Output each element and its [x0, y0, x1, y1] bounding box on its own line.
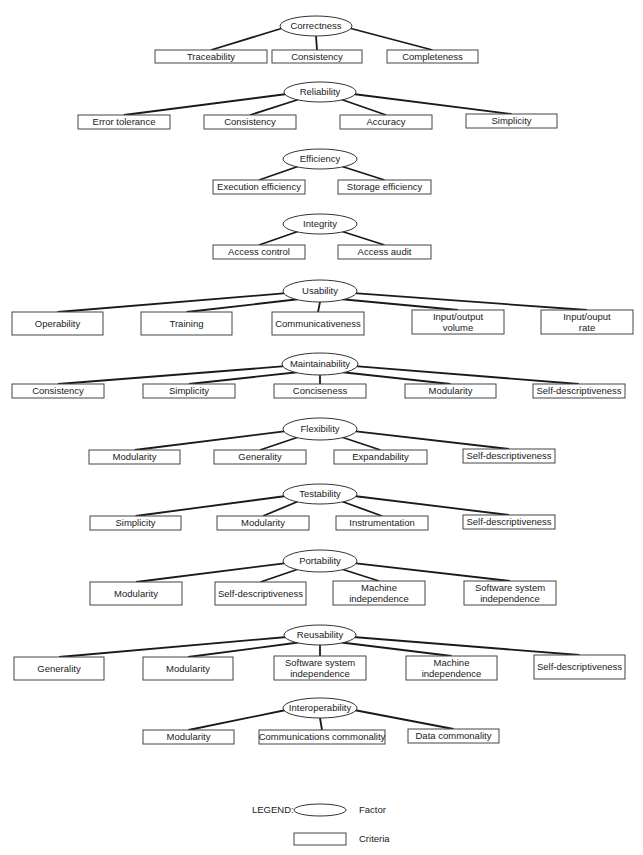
- criteria-label: Modularity: [241, 517, 285, 528]
- connector-line: [354, 293, 587, 310]
- connector-line: [259, 167, 298, 181]
- legend-factor-label: Factor: [359, 804, 386, 815]
- connector-line: [342, 437, 380, 450]
- criteria-label: Execution efficiency: [217, 181, 301, 192]
- criteria-label: Storage efficiency: [347, 181, 423, 192]
- criteria-label: Accuracy: [366, 116, 405, 127]
- connector-line: [189, 710, 286, 730]
- legend: LEGEND: Factor Criteria: [252, 804, 390, 845]
- criteria-label: Data commonality: [415, 730, 491, 741]
- criteria-label: Conciseness: [293, 385, 348, 396]
- criteria-label: Generality: [238, 451, 282, 462]
- criteria-label: Input/ouput: [563, 311, 611, 322]
- connector-line: [261, 569, 298, 582]
- connector-line: [187, 299, 298, 312]
- connector-line: [58, 366, 285, 384]
- connector-line: [354, 710, 453, 729]
- factor-label: Usability: [302, 285, 338, 296]
- criteria-label: Simplicity: [491, 115, 531, 126]
- factor-tree-reliability: ReliabilityError toleranceConsistencyAcc…: [78, 82, 557, 129]
- legend-title: LEGEND:: [252, 804, 294, 815]
- connector-line: [342, 167, 384, 181]
- criteria-label: Consistency: [291, 51, 343, 62]
- criteria-label: Operability: [35, 318, 81, 329]
- criteria-label: Training: [170, 318, 204, 329]
- connector-line: [211, 28, 283, 50]
- factor-tree-maintainability: MaintainabilityConsistencySimplicityConc…: [12, 353, 625, 398]
- connector-line: [260, 437, 298, 450]
- factor-label: Testability: [299, 488, 341, 499]
- criteria-label: Consistency: [32, 385, 84, 396]
- connector-line: [354, 563, 510, 581]
- criteria-label: Access control: [228, 246, 290, 257]
- connector-line: [354, 496, 509, 515]
- criteria-label: Error tolerance: [93, 116, 156, 127]
- factor-trees: CorrectnessTraceabilityConsistencyComple…: [12, 16, 633, 744]
- criteria-label: Input/output: [433, 311, 484, 322]
- criteria-label: Simplicity: [115, 517, 155, 528]
- criteria-label: Access audit: [358, 246, 412, 257]
- connector-line: [353, 637, 579, 655]
- factor-tree-integrity: IntegrityAccess controlAccess audit: [213, 214, 431, 259]
- connector-line: [318, 302, 320, 312]
- factor-label: Reusability: [297, 629, 344, 640]
- criteria-label: Modularity: [114, 588, 158, 599]
- connector-line: [189, 372, 297, 384]
- factor-tree-testability: TestabilitySimplicityModularityInstrumen…: [90, 484, 555, 530]
- legend-factor-ellipse-icon: [294, 804, 346, 816]
- connector-line: [342, 643, 452, 657]
- criteria-label: Modularity: [429, 385, 473, 396]
- criteria-label: Self-descriptiveness: [218, 588, 303, 599]
- criteria-label: Modularity: [113, 451, 157, 462]
- connector-line: [342, 299, 458, 310]
- connector-line: [135, 431, 286, 450]
- connector-line: [355, 366, 579, 384]
- criteria-label: Communicativeness: [275, 318, 361, 329]
- criteria-label: Traceability: [187, 51, 235, 62]
- criteria-label: Modularity: [167, 731, 211, 742]
- criteria-label: Expandability: [352, 451, 409, 462]
- criteria-label: independence: [422, 668, 482, 679]
- connector-line: [136, 563, 286, 582]
- criteria-label: independence: [290, 668, 350, 679]
- criteria-label: volume: [443, 322, 474, 333]
- criteria-label: Self-descriptiveness: [466, 516, 551, 527]
- factor-label: Integrity: [303, 218, 337, 229]
- factor-tree-reusability: ReusabilityGeneralityModularitySoftware …: [14, 625, 625, 680]
- criteria-label: Self-descriptiveness: [466, 450, 551, 461]
- criteria-label: Machine: [361, 582, 397, 593]
- factor-label: Maintainability: [290, 358, 350, 369]
- factor-tree-correctness: CorrectnessTraceabilityConsistencyComple…: [155, 16, 478, 63]
- criteria-label: rate: [579, 322, 595, 333]
- criteria-label: Machine: [434, 657, 470, 668]
- factor-tree-flexibility: FlexibilityModularityGeneralityExpandabi…: [89, 418, 555, 464]
- criteria-label: Modularity: [166, 663, 210, 674]
- criteria-label: Self-descriptiveness: [536, 385, 621, 396]
- connector-line: [342, 502, 382, 517]
- criteria-label: Instrumentation: [349, 517, 414, 528]
- criteria-label: Simplicity: [169, 385, 209, 396]
- connector-line: [342, 569, 379, 581]
- legend-criteria-label: Criteria: [359, 833, 390, 844]
- criteria-label: Consistency: [224, 116, 276, 127]
- connector-line: [259, 232, 298, 246]
- connector-line: [263, 502, 298, 517]
- criteria-label: Communications commonality: [259, 731, 386, 742]
- connector-line: [136, 496, 286, 516]
- factor-label: Efficiency: [300, 153, 341, 164]
- connector-line: [320, 718, 322, 730]
- connector-line: [59, 637, 287, 657]
- connector-line: [343, 372, 451, 384]
- criteria-label: independence: [349, 593, 409, 604]
- criteria-label: Software system: [475, 582, 545, 593]
- connector-line: [342, 100, 386, 116]
- criteria-label: Self-descriptiveness: [537, 661, 622, 672]
- factor-label: Flexibility: [300, 423, 339, 434]
- connector-line: [316, 36, 317, 50]
- criteria-label: Generality: [37, 663, 81, 674]
- factor-label: Correctness: [290, 20, 341, 31]
- legend-criteria-box-icon: [294, 833, 346, 845]
- connector-line: [354, 431, 509, 449]
- factor-label: Portability: [299, 555, 341, 566]
- criteria-label: independence: [480, 593, 540, 604]
